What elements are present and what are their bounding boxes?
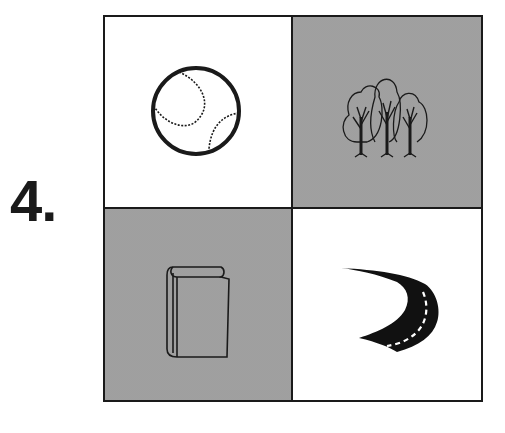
trees-icon xyxy=(337,67,437,167)
picture-grid xyxy=(103,15,483,402)
cell-book[interactable] xyxy=(105,209,293,400)
road-icon xyxy=(337,262,457,362)
cell-baseball[interactable] xyxy=(105,17,293,209)
baseball-icon xyxy=(149,63,249,163)
book-icon xyxy=(159,259,249,359)
cell-road[interactable] xyxy=(293,209,481,400)
cell-trees[interactable] xyxy=(293,17,481,209)
question-number: 4. xyxy=(10,172,56,230)
